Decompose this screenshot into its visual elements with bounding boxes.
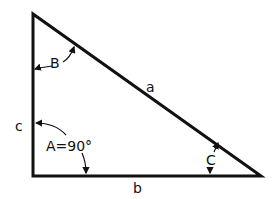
side-c-label: c (15, 118, 23, 134)
angle-b-label: B (50, 55, 60, 71)
angle-c-label: C (206, 152, 216, 168)
angle-a-arc-2 (82, 153, 86, 173)
angle-a-arc (36, 123, 66, 135)
triangle-diagram: B A=90° C c a b (0, 0, 275, 199)
angle-b-arc-2 (63, 47, 74, 62)
side-b-label: b (133, 180, 142, 196)
side-a-label: a (146, 79, 155, 95)
angle-a-label: A=90° (46, 138, 92, 154)
